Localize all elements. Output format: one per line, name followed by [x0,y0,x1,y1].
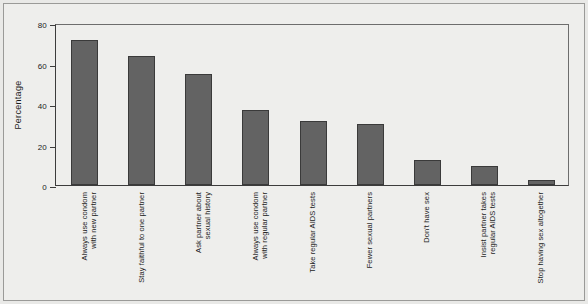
x-category-label-line: Always use condom [79,192,88,298]
bar [357,124,384,185]
figure-frame: Percentage 020406080 Always use condomwi… [3,3,585,301]
y-tick-label: 60 [38,61,47,70]
bar [128,56,155,185]
bar [185,74,212,185]
y-tick-mark [50,187,56,188]
x-category-label-line: regular AIDS tests [488,192,497,298]
bar [71,40,98,185]
x-category-label-line: with new partner [88,192,97,298]
y-tick-label: 20 [38,142,47,151]
x-category-label-line: Stop having sex altogether [536,192,545,298]
bar-series [56,25,568,185]
bar [242,110,269,185]
x-category-label-line: Insist partner takes [479,192,488,298]
bar [300,121,327,185]
bar [414,160,441,185]
x-category-label-line: Take regular AIDS tests [308,192,317,298]
y-tick-label: 80 [38,21,47,30]
x-category-label-line: sexual history [202,192,211,298]
bar [528,180,555,185]
x-category-label-line: Don't have sex [422,192,431,298]
figure-canvas: Percentage 020406080 Always use condomwi… [0,0,588,304]
x-category-label-line: Always use condom [250,192,259,298]
y-tick-label: 40 [38,102,47,111]
x-category-label-line: with regular partner [259,192,268,298]
y-axis-label: Percentage [13,80,23,129]
x-category-label-line: Stay faithful to one partner [136,192,145,298]
plot-area: 020406080 [55,24,569,186]
x-category-label-line: Ask partner about [193,192,202,298]
bar [471,166,498,185]
y-tick-label: 0 [42,183,47,192]
x-category-label-line: Fewer sexual partners [365,192,374,298]
